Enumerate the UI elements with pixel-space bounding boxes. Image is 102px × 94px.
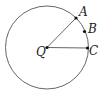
radius-qc — [47, 48, 88, 49]
point-q — [45, 46, 48, 49]
label-b: B — [87, 22, 97, 36]
circle-diagram: Q A B C — [0, 0, 102, 94]
radius-qa — [47, 18, 76, 48]
label-q: Q — [36, 45, 46, 59]
label-c: C — [89, 44, 98, 58]
point-a — [74, 16, 77, 19]
label-a: A — [78, 5, 88, 19]
point-b — [83, 30, 86, 33]
